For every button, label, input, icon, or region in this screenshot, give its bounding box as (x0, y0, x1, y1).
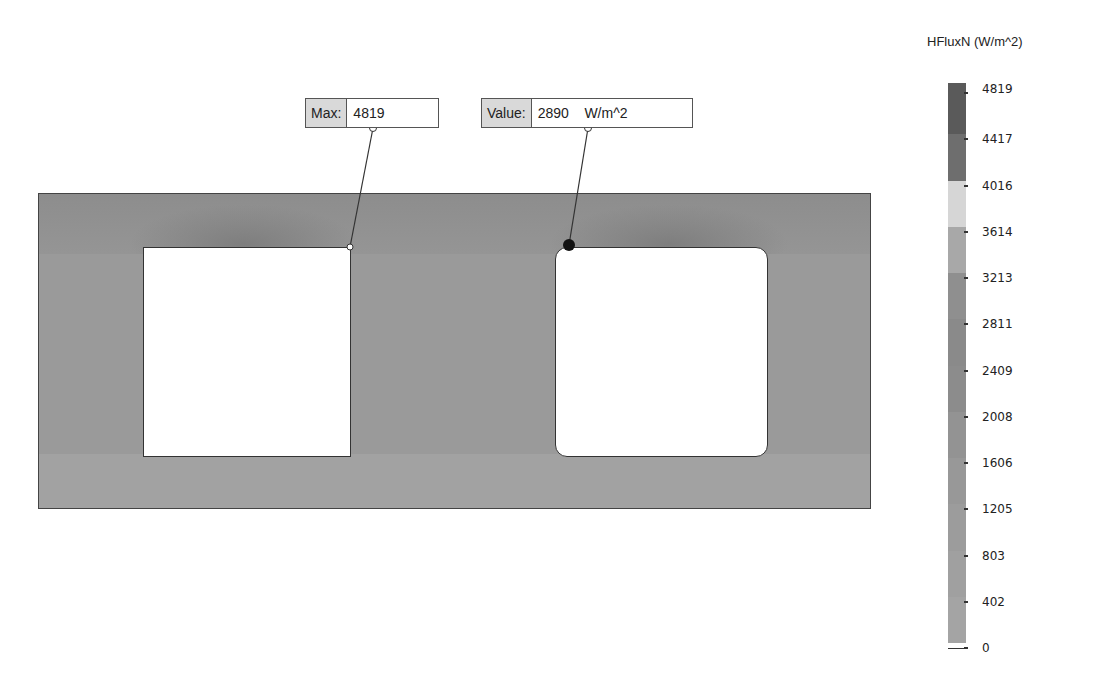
legend-band (948, 412, 966, 458)
legend-tick-mark (964, 647, 968, 649)
legend-band (948, 319, 966, 365)
legend-band (948, 597, 966, 643)
probe-point-marker (563, 239, 575, 251)
legend-tick-label: 2409 (982, 364, 1013, 378)
legend-band (948, 458, 966, 504)
legend-tick-mark (964, 231, 968, 233)
legend-tick-label: 803 (982, 549, 1005, 563)
legend-band (948, 181, 966, 227)
legend-tick-mark (964, 508, 968, 510)
legend-tick-mark (964, 555, 968, 557)
legend-tick-label: 3614 (982, 225, 1013, 239)
legend-band (948, 366, 966, 412)
legend-tick-label: 2811 (982, 317, 1013, 331)
probe-callout-label: Value: (482, 99, 532, 127)
legend-title: HFluxN (W/m^2) (927, 34, 1023, 49)
legend-band (948, 227, 966, 273)
legend-tick-label: 1205 (982, 502, 1013, 516)
legend-tick-mark (964, 462, 968, 464)
legend-tick-label: 2008 (982, 410, 1013, 424)
legend-tick-label: 4016 (982, 179, 1013, 193)
legend-tick-mark (964, 323, 968, 325)
legend-tick-mark (964, 185, 968, 187)
legend-tick-mark (964, 92, 968, 94)
legend-tick-label: 3213 (982, 271, 1013, 285)
legend-tick-label: 4417 (982, 132, 1013, 146)
max-callout: Max: 4819 (305, 98, 439, 128)
legend-band (948, 504, 966, 550)
legend-tick-label: 4819 (982, 82, 1013, 96)
legend-band (948, 134, 966, 180)
legend-band (948, 83, 966, 134)
max-point-marker (347, 244, 353, 250)
legend-tick-mark (964, 277, 968, 279)
probe-callout: Value: 2890 W/m^2 (481, 98, 693, 128)
legend-tick-label: 402 (982, 595, 1005, 609)
legend-colorbar (948, 88, 966, 649)
legend-band (948, 273, 966, 319)
legend-tick-mark (964, 138, 968, 140)
probe-callout-value: 2890 W/m^2 (532, 99, 634, 127)
legend-tick-mark (964, 601, 968, 603)
max-callout-label: Max: (306, 99, 347, 127)
legend-tick-label: 0 (982, 641, 990, 655)
max-callout-value: 4819 (347, 99, 390, 127)
legend-tick-label: 1606 (982, 456, 1013, 470)
legend-band (948, 551, 966, 597)
legend-tick-mark (964, 370, 968, 372)
legend-tick-mark (964, 416, 968, 418)
